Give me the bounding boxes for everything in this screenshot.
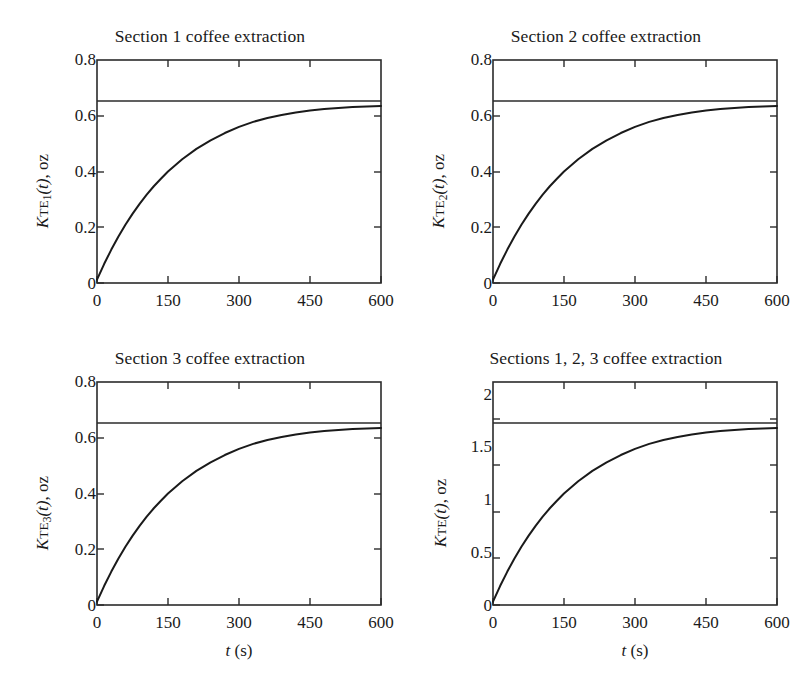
plot-frame <box>97 382 381 605</box>
plot-area-sections-1-2-3 <box>410 348 802 664</box>
panel-section-3: Section 3 coffee extraction KTE3(t), oz … <box>14 348 406 674</box>
plot-frame <box>493 382 777 605</box>
plot-area-section-2 <box>410 26 802 342</box>
figure-canvas: Section 1 coffee extraction KTE1(t), oz … <box>0 0 811 674</box>
panel-section-1: Section 1 coffee extraction KTE1(t), oz … <box>14 26 406 342</box>
plot-frame <box>493 60 777 283</box>
panel-sections-1-2-3: Sections 1, 2, 3 coffee extraction KTE(t… <box>410 348 802 674</box>
plot-frame <box>97 60 381 283</box>
panel-section-2: Section 2 coffee extraction KTE2(t), oz … <box>410 26 802 342</box>
plot-area-section-3 <box>14 348 406 664</box>
plot-area-section-1 <box>14 26 406 342</box>
